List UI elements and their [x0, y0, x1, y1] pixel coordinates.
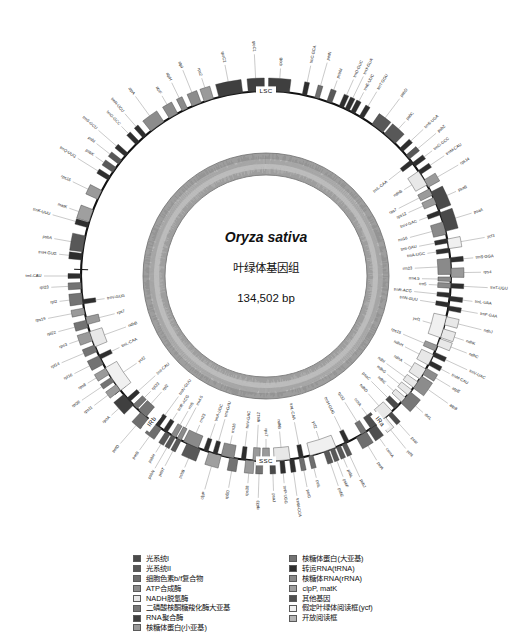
gene-label: trnH-GUG [323, 396, 336, 415]
gene-label: rps19 [35, 316, 47, 323]
gene-label: trnH-GUG [38, 249, 57, 256]
gene-box [70, 233, 86, 252]
gene-box [412, 155, 425, 167]
legend-swatch-icon [133, 555, 141, 562]
gene-label: trnQ-UUG [59, 145, 77, 159]
gene-leader-line [69, 208, 78, 211]
gene-leader-line [427, 252, 436, 253]
gene-box [69, 252, 83, 260]
gene-leader-line [283, 473, 284, 483]
gene-label: ndhC [468, 351, 479, 359]
gene-label: ycf1 [412, 315, 421, 322]
gene-leader-line [120, 425, 136, 443]
gene-label: ndhH [393, 339, 404, 348]
gene-leader-line [428, 390, 448, 404]
legend-swatch-icon [133, 565, 141, 572]
gene-box [68, 282, 81, 289]
legend-swatch-icon [289, 555, 297, 562]
gene-label: psaJ [272, 493, 277, 502]
gene-label: rrn4.5 [195, 394, 205, 406]
gene-leader-line [409, 206, 424, 213]
gene-leader-line [337, 461, 343, 477]
legend-label: 核糖体RNA(rRNA) [302, 574, 362, 583]
gene-box [359, 105, 370, 119]
gene-label: rpoA [101, 415, 111, 425]
legend-swatch-icon [289, 615, 297, 622]
gene-leader-line [461, 310, 478, 313]
gene-label: petG [305, 489, 312, 499]
gene-label: trnD-GUC [352, 59, 364, 78]
gene-label: rrn4.5 [409, 276, 421, 281]
gene-box [433, 352, 447, 362]
legend-label: 转运RNA(tRNA) [302, 564, 354, 573]
legend-item: 核糖体RNA(rRNA) [289, 574, 433, 583]
gene-label: trnG-GCC [105, 109, 121, 126]
gene-box [69, 293, 83, 306]
gene-box [302, 82, 309, 96]
legend-item: 转运RNA(tRNA) [289, 564, 433, 573]
gene-leader-line [415, 267, 438, 268]
gene-box [355, 420, 367, 434]
gene-label: ndhG [376, 364, 387, 374]
gene-box [450, 256, 463, 262]
gene-box [406, 147, 419, 159]
gene-leader-line [248, 473, 249, 483]
gene-label: trnW-CCA [295, 498, 303, 517]
legend-label: ATP合成酶 [146, 584, 181, 593]
gene-label: petA [376, 461, 385, 471]
gene-leader-line [461, 237, 485, 241]
gene-leader-line [136, 96, 150, 115]
gene-box [413, 376, 432, 396]
gene-label: petL [315, 480, 322, 490]
gene-leader-line [445, 360, 467, 370]
gene-label: trnN-GUU [399, 294, 418, 302]
gene-label: rps12 [396, 211, 408, 220]
gene-label: trnL-UAA [475, 299, 493, 306]
gene-leader-line [398, 423, 409, 436]
gene-label: ndhB [276, 419, 282, 429]
gene-leader-line [419, 243, 435, 246]
gene-leader-line [69, 340, 78, 343]
gene-leader-line [454, 337, 464, 340]
gene-label: trnA-UGC [407, 251, 426, 258]
gene-box [97, 169, 111, 180]
gene-label: psbM [335, 67, 343, 79]
gene-label: trnV-GAC [244, 411, 251, 429]
gene-label: psbK [85, 148, 96, 158]
gene-leader-line [385, 99, 399, 118]
genome-subtitle: 叶绿体基因组 [233, 261, 300, 274]
legend-item: ATP合成酶 [133, 584, 283, 593]
gene-label: psbI [87, 135, 96, 144]
legend-item: RNA聚合酶 [133, 613, 283, 622]
gene-label: rpl22 [46, 329, 57, 336]
gene-label: trnV-GUG [107, 293, 126, 300]
gene-leader-line [314, 468, 316, 478]
gene-label: trnI-CAU [155, 361, 170, 375]
gene-box [143, 111, 164, 131]
gene-label: rpl20 [224, 489, 231, 500]
gene-box [127, 132, 139, 145]
gene-box [309, 455, 317, 469]
gene-label: ycf4 [406, 449, 415, 459]
gene-label: trnA-UGC [213, 403, 224, 422]
gene-leader-line [48, 314, 72, 319]
gene-leader-line [387, 364, 406, 378]
legend-label: 光系统I [146, 554, 169, 563]
gene-label: trnL-CAA [120, 336, 138, 348]
gene-label: ycf2 [137, 355, 147, 364]
gene-label: atpE [451, 386, 461, 395]
gene-box [163, 419, 174, 432]
gene-leader-line [458, 324, 481, 330]
gene-leader-line [156, 444, 161, 452]
gene-leader-line [304, 470, 307, 487]
gene-leader-line [451, 347, 467, 353]
gene-box [436, 301, 450, 307]
gene-leader-line [96, 299, 105, 300]
gene-label: ndhB [392, 188, 403, 197]
gene-leader-line [391, 430, 406, 449]
gene-box [244, 460, 254, 474]
gene-label: rps8 [77, 382, 87, 391]
gene-label: trnM-CAU [451, 372, 469, 385]
gene-label: rpl33 [255, 500, 260, 510]
gene-box [340, 430, 350, 444]
